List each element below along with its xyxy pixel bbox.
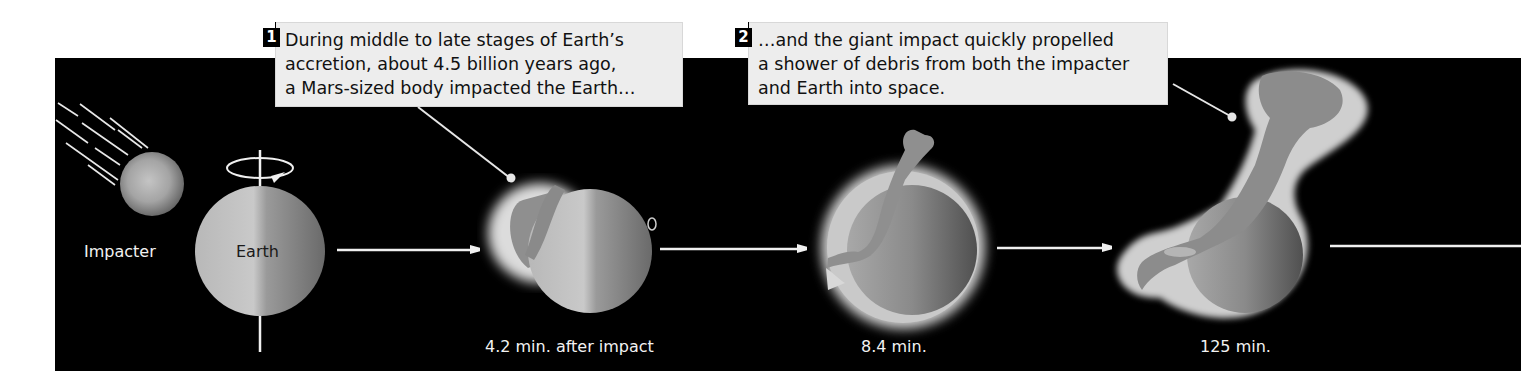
caption-step-1-line: accretion, about 4.5 billion years ago, [285, 52, 671, 76]
caption-step-2-line: and Earth into space. [758, 76, 1156, 100]
caption-step-2-line: a shower of debris from both the impacte… [758, 52, 1156, 76]
stage-label-125-min: 125 min. [1200, 337, 1271, 356]
caption-step-2: …and the giant impact quickly propelled … [748, 22, 1168, 105]
stage-125-min [1117, 70, 1368, 319]
caption-step-1: During middle to late stages of Earth’s … [275, 22, 683, 107]
impacter-label: Impacter [84, 242, 156, 261]
stage-4-2-min [488, 183, 656, 313]
stage-label-8-4-min: 8.4 min. [861, 337, 927, 356]
caption-step-1-line: During middle to late stages of Earth’s [285, 28, 671, 52]
stage-label-4-2-min: 4.2 min. after impact [485, 337, 654, 356]
stage-8-4-min [821, 130, 985, 329]
earth-label: Earth [236, 242, 279, 261]
step-number-badge: 1 [263, 28, 280, 47]
step-number-badge: 2 [735, 28, 752, 47]
caption-step-2-line: …and the giant impact quickly propelled [758, 28, 1156, 52]
caption-step-1-line: a Mars-sized body impacted the Earth… [285, 76, 671, 100]
impacter-body [120, 152, 184, 216]
